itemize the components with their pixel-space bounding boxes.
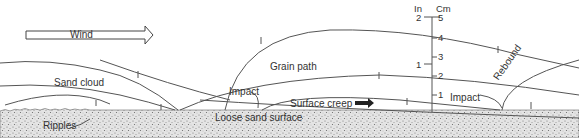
scale-cm-5: 5 (438, 13, 443, 23)
scale-cm-3: 3 (438, 52, 443, 62)
loose-sand-surface-label: Loose sand surface (215, 113, 302, 123)
impact-label-right: Impact (450, 93, 480, 103)
sand-cloud-label: Sand cloud (54, 78, 104, 88)
wind-label: Wind (70, 30, 93, 40)
scale-in-2: 2 (416, 13, 421, 23)
scale-in-1: 1 (416, 60, 421, 70)
impact-label-left: Impact (229, 87, 259, 97)
surface-creep-arrow-icon (355, 98, 374, 108)
scale-cm-2: 2 (438, 71, 443, 81)
grain-path-label: Grain path (270, 62, 317, 72)
scale-cm-1: 1 (438, 90, 443, 100)
surface-creep-label: Surface creep (290, 99, 352, 109)
scale-cm-4: 4 (438, 33, 443, 43)
ripples-label: Ripples (43, 121, 76, 131)
